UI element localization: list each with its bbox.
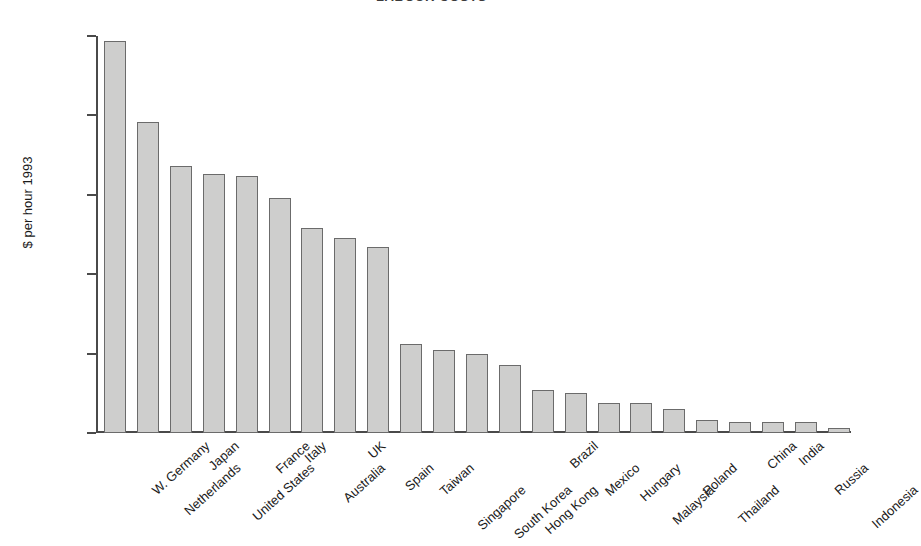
x-axis-tick-label: Russia	[832, 461, 870, 497]
bar	[367, 247, 389, 433]
y-axis-tick	[87, 35, 96, 37]
bar	[565, 393, 587, 433]
x-axis-tick-label: Poland	[701, 461, 740, 498]
x-axis-tick-label: Australia	[341, 461, 387, 505]
plot-area: 0510152025	[96, 36, 851, 433]
y-axis-tick	[87, 432, 96, 434]
bar	[762, 422, 784, 433]
x-axis-tick-label: India	[796, 439, 826, 468]
bar	[269, 198, 291, 433]
y-axis-line	[96, 36, 98, 433]
bar	[301, 228, 323, 433]
bar	[696, 420, 718, 433]
bar	[236, 176, 258, 433]
y-axis-tick	[87, 194, 96, 196]
bar	[729, 422, 751, 433]
y-axis-tick	[87, 114, 96, 116]
bar	[466, 354, 488, 433]
y-axis-title: $ per hour 1993	[20, 103, 35, 303]
bar	[795, 422, 817, 433]
x-axis-tick-label: Taiwan	[437, 461, 476, 498]
bar	[203, 174, 225, 433]
bar	[170, 166, 192, 433]
x-axis-tick-label: Indonesia	[869, 483, 920, 530]
x-axis-tick-label: Thailand	[736, 483, 782, 526]
bar	[598, 403, 620, 433]
x-axis-tick-label: China	[765, 439, 799, 471]
x-axis-tick-labels: W. GermanyNetherlandsJapanUnited StatesF…	[96, 433, 863, 546]
y-axis-tick	[87, 353, 96, 355]
bar	[104, 41, 126, 433]
bar	[137, 122, 159, 433]
chart-title: LABOUR COSTS	[0, 0, 863, 3]
x-axis-tick-label: Brazil	[567, 439, 600, 470]
bar	[663, 409, 685, 433]
bar	[499, 365, 521, 433]
bar	[400, 344, 422, 433]
bar	[532, 390, 554, 433]
x-axis-tick-label: UK	[366, 439, 388, 461]
bar	[433, 350, 455, 433]
y-axis-tick	[87, 273, 96, 275]
bar	[630, 403, 652, 433]
x-axis-tick-label: Hungary	[637, 461, 682, 504]
x-axis-tick-label: Spain	[403, 461, 436, 493]
bar	[334, 238, 356, 433]
